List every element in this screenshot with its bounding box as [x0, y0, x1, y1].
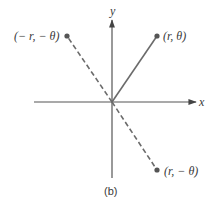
segment-r-neg-theta	[112, 102, 157, 170]
label-r-neg-theta: (r, − θ)	[164, 164, 198, 178]
y-axis-label: y	[109, 4, 116, 18]
polar-coordinates-diagram: y x (r, θ) (− r, − θ) (r, − θ) (b)	[0, 0, 218, 210]
x-axis-label: x	[198, 95, 205, 109]
diagram-svg: y x (r, θ) (− r, − θ) (r, − θ) (b)	[0, 0, 218, 210]
segment-r-theta	[112, 36, 157, 102]
label-neg-r-neg-theta: (− r, − θ)	[14, 29, 59, 43]
label-r-theta: (r, θ)	[163, 29, 186, 43]
point-neg-r-neg-theta	[64, 33, 69, 38]
point-r-theta	[154, 33, 159, 38]
figure-caption: (b)	[104, 185, 117, 197]
point-r-neg-theta	[154, 167, 159, 172]
segment-neg-r-neg-theta	[67, 36, 112, 102]
